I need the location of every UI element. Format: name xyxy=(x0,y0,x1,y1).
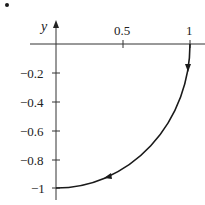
bullet-marker xyxy=(5,3,9,7)
curve xyxy=(56,44,190,188)
arrow-left-icon xyxy=(104,173,112,179)
parametric-plot: y 0.5 1 −0.2 −0.4 −0.6 −0.8 −1 xyxy=(0,0,205,205)
y-tick-label: −1 xyxy=(31,181,45,196)
x-tick-label: 1 xyxy=(186,23,193,38)
y-tick-label: −0.8 xyxy=(20,153,44,168)
y-tick-label: −0.4 xyxy=(20,95,44,110)
y-axis-label: y xyxy=(39,19,48,34)
x-tick-label: 0.5 xyxy=(114,23,130,38)
arrow-down-icon xyxy=(185,64,191,72)
y-axis-arrow-icon xyxy=(53,20,59,28)
y-tick-label: −0.6 xyxy=(20,124,44,139)
y-tick-label: −0.2 xyxy=(20,66,44,81)
